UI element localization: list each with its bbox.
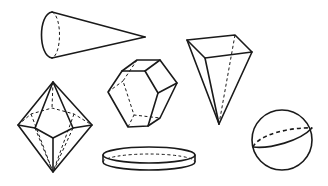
figure-canvas <box>0 0 328 186</box>
inverted-pyramid-shape <box>187 35 252 124</box>
sphere-shape <box>252 110 312 170</box>
disc-shape <box>103 147 195 170</box>
bipyramid-shape <box>18 82 92 172</box>
hexagonal-prism-shape <box>108 60 177 127</box>
cone-shape <box>42 12 146 58</box>
solids-diagram <box>0 0 328 186</box>
